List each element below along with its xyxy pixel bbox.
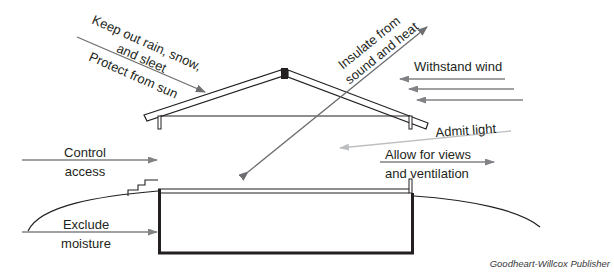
label-withstand-wind: Withstand wind <box>414 59 502 75</box>
label-exclude-line2: moisture <box>50 234 122 253</box>
foundation-box <box>160 189 413 253</box>
label-exclude-line1: Exclude <box>50 215 122 234</box>
roof-post-right <box>409 116 412 129</box>
label-control-line1: Control <box>50 143 120 162</box>
roof-post-left <box>158 116 161 129</box>
label-exclude-moisture: Exclude moisture <box>50 215 122 253</box>
label-control-line2: access <box>50 162 120 181</box>
label-control-access: Control access <box>50 143 120 181</box>
label-allow-views-line1: Allow for views <box>385 145 471 164</box>
label-allow-views: Allow for views and ventilation <box>385 145 471 183</box>
ground-right <box>414 196 540 227</box>
label-allow-views-line2: and ventilation <box>385 164 471 183</box>
roof-ridge <box>281 68 288 79</box>
publisher-credit: Goodheart-Willcox Publisher <box>490 258 610 269</box>
